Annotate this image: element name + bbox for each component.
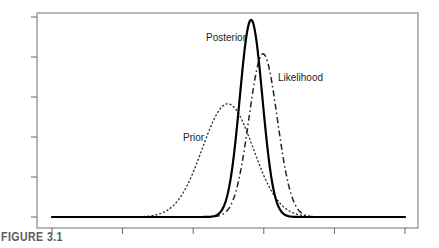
label-prior: Prior: [183, 132, 205, 143]
label-likelihood: Likelihood: [278, 72, 323, 83]
curve-prior: [52, 104, 405, 217]
curves: [52, 20, 405, 217]
chart: Posterior Likelihood Prior: [0, 0, 439, 248]
label-posterior: Posterior: [206, 32, 247, 43]
curve-labels: Posterior Likelihood Prior: [183, 32, 323, 143]
curve-posterior: [52, 20, 405, 217]
x-axis-ticks: [52, 228, 405, 234]
y-axis-ticks: [31, 17, 37, 217]
figure-caption: FIGURE 3.1: [1, 230, 63, 244]
